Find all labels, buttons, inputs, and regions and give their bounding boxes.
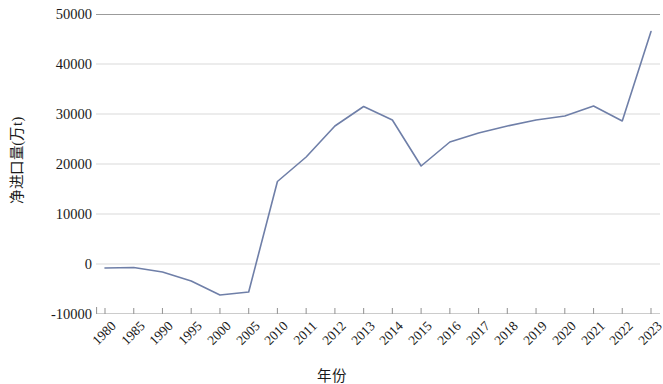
x-axis-tick-label: 2018	[484, 319, 521, 356]
x-axis-tick-label: 2023	[628, 319, 663, 356]
x-axis-tick-label: 2017	[456, 319, 493, 356]
x-axis-tick-label: 2015	[398, 319, 435, 356]
x-axis-tick-label: 1985	[111, 319, 148, 356]
y-axis-tick-label: 0	[20, 257, 92, 271]
chart-canvas	[96, 14, 660, 314]
x-axis-tick-label: 2020	[542, 319, 579, 356]
y-axis-tick-label: 40000	[20, 57, 92, 71]
y-axis-tick-label: 10000	[20, 207, 92, 221]
plot-area	[96, 14, 660, 314]
y-axis-tick-label: 30000	[20, 107, 92, 121]
x-axis-tick-label: 2005	[226, 319, 263, 356]
x-axis-tick-label: 1980	[82, 319, 119, 356]
x-axis-tick-label: 1995	[168, 319, 205, 356]
data-line-series-1	[105, 32, 651, 296]
x-axis-tick-label: 2016	[427, 319, 464, 356]
axis-lines	[96, 307, 660, 314]
x-axis-tick-label: 2019	[513, 319, 550, 356]
x-axis-title: 年份	[0, 364, 663, 384]
x-axis-tick-label: 2022	[599, 319, 636, 356]
x-axis-tick-labels: 1980198519901995200020052010201120122013…	[0, 314, 663, 364]
line-chart: 净进口量(万t) 50000400003000020000100000-1000…	[0, 0, 663, 384]
gridlines	[96, 14, 660, 264]
y-axis-tick-label: 50000	[20, 7, 92, 21]
x-axis-tick-label: 2021	[571, 319, 608, 356]
x-axis-tick-label: 2010	[255, 319, 292, 356]
x-axis-tick-label: 2011	[283, 319, 320, 356]
x-axis-tick-label: 2014	[369, 319, 406, 356]
x-axis-tick-label: 2012	[312, 319, 349, 356]
x-axis-tick-label: 1990	[140, 319, 177, 356]
y-axis-tick-label: 20000	[20, 157, 92, 171]
x-axis-tick-label: 2000	[197, 319, 234, 356]
x-axis-tick-label: 2013	[341, 319, 378, 356]
